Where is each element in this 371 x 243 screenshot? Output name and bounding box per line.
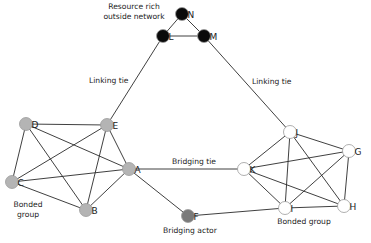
- edge-g-k: [244, 151, 349, 169]
- edge-j-h: [290, 132, 344, 206]
- node-label-g: G: [355, 147, 362, 157]
- annotation-bridging-actor: Bridging actor: [163, 226, 218, 235]
- edges-layer: [12, 14, 349, 216]
- edge-a-f: [129, 169, 188, 216]
- network-svg: NLMDEACBFJGKIH Resource richoutside netw…: [0, 0, 371, 243]
- node-label-c: C: [18, 178, 24, 188]
- edge-j-k: [244, 132, 290, 169]
- nodes-layer: [6, 8, 356, 223]
- edge-g-h: [344, 151, 349, 206]
- edge-i-h: [285, 206, 344, 208]
- network-diagram: NLMDEACBFJGKIH Resource richoutside netw…: [0, 0, 371, 243]
- edge-j-g: [290, 132, 349, 151]
- node-label-n: N: [188, 10, 195, 20]
- edge-e-b: [86, 125, 107, 210]
- node-label-h: H: [350, 202, 357, 212]
- node-label-a: A: [135, 165, 142, 175]
- node-label-i: I: [291, 204, 294, 214]
- node-label-m: M: [210, 32, 218, 42]
- edge-f-i: [188, 208, 285, 216]
- annotation-linking-tie-right: Linking tie: [252, 77, 292, 86]
- node-label-d: D: [32, 120, 39, 130]
- annotation-resource-rich: Resource richoutside network: [103, 2, 165, 21]
- edge-a-b: [86, 169, 129, 210]
- annotation-linking-tie-left: Linking tie: [89, 76, 129, 85]
- edge-j-i: [285, 132, 290, 208]
- node-label-b: B: [92, 206, 98, 216]
- node-labels-layer: NLMDEACBFJGKIH: [18, 10, 362, 222]
- edge-k-i: [244, 169, 285, 208]
- edge-e-a: [107, 125, 129, 169]
- edge-d-c: [12, 124, 26, 182]
- annotation-bonded-group-left: Bondedgroup: [14, 200, 43, 219]
- node-label-j: J: [295, 128, 299, 138]
- node-label-e: E: [113, 121, 119, 131]
- annotation-bridging-tie: Bridging tie: [172, 157, 216, 166]
- node-label-l: L: [169, 32, 174, 42]
- node-label-f: F: [194, 212, 199, 222]
- annotation-bonded-group-right: Bonded group: [277, 217, 331, 226]
